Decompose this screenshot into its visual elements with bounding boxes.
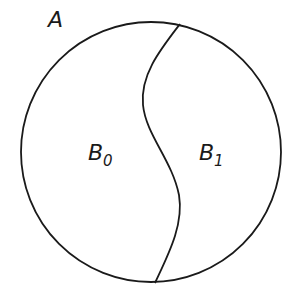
- set-partition-diagram: A B0 B1: [0, 0, 294, 303]
- region-b1-subscript: 1: [214, 152, 224, 170]
- region-b1-label: B1: [199, 140, 224, 170]
- set-a-circle: [21, 22, 281, 282]
- region-b0-label: B0: [88, 140, 113, 170]
- region-b0-name: B: [88, 140, 103, 165]
- partition-curve: [143, 24, 180, 283]
- region-b1-name: B: [199, 140, 214, 165]
- set-a-label: A: [46, 7, 63, 32]
- region-b0-subscript: 0: [103, 152, 113, 170]
